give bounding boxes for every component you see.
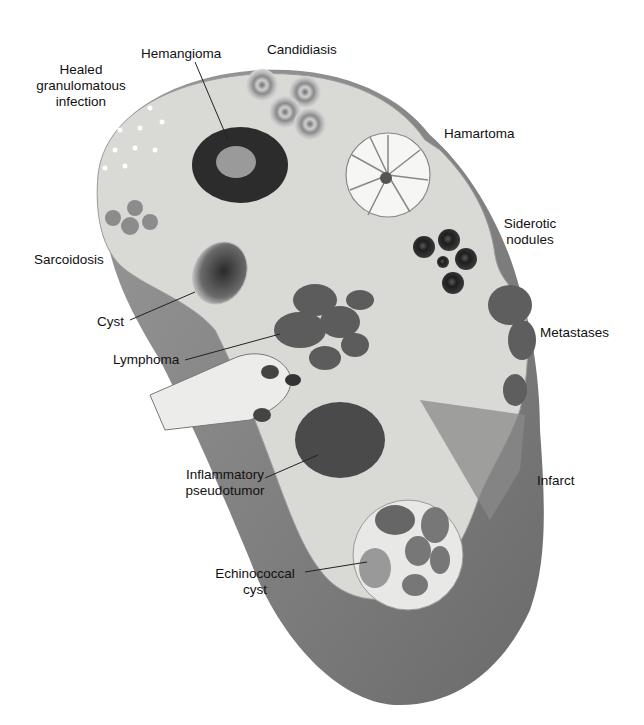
label-hamartoma: Hamartoma — [444, 126, 515, 142]
echinococcal-cyst-lesion — [353, 500, 463, 610]
label-hemangioma: Hemangioma — [141, 46, 221, 62]
label-sarcoidosis: Sarcoidosis — [34, 252, 104, 268]
hamartoma-lesion — [346, 133, 430, 217]
label-cyst: Cyst — [97, 314, 124, 330]
label-metastases: Metastases — [540, 325, 609, 341]
label-infarct: Infarct — [537, 473, 575, 489]
label-siderotic-nodules: Siderotic nodules — [495, 216, 565, 248]
label-lymphoma: Lymphoma — [113, 352, 179, 368]
label-healed-granulomatous-infection: Healed granulomatous infection — [36, 62, 126, 110]
inflammatory-pseudotumor-lesion — [295, 402, 385, 478]
label-candidiasis: Candidiasis — [267, 42, 337, 58]
label-inflammatory-pseudotumor: Inflammatory pseudotumor — [180, 467, 270, 499]
hemangioma-lesion — [192, 127, 288, 203]
label-echinococcal-cyst: Echinococcal cyst — [210, 566, 300, 598]
